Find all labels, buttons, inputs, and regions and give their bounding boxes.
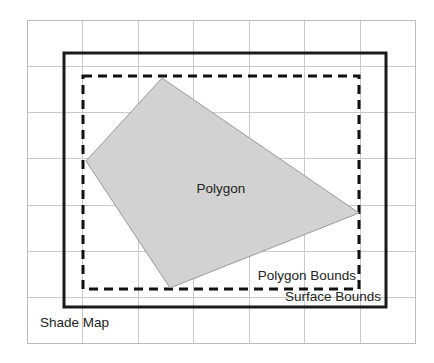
surface-bounds-label: Surface Bounds [285,289,381,304]
shade-map-label: Shade Map [40,315,109,330]
diagram-canvas: Polygon Polygon Bounds Surface Bounds Sh… [0,0,434,363]
shade-map-diagram: Polygon Polygon Bounds Surface Bounds Sh… [0,0,434,363]
polygon-bounds-label: Polygon Bounds [258,268,357,283]
polygon-label: Polygon [197,181,246,196]
